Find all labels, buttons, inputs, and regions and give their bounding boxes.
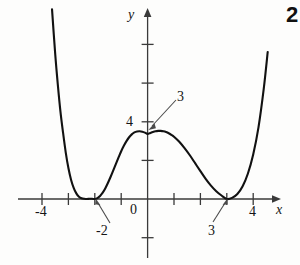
x-axis <box>18 193 281 205</box>
plot-canvas <box>0 0 300 265</box>
x-axis-label: x <box>276 203 282 217</box>
origin-label: 0 <box>130 203 137 217</box>
left-root-callout-arrow <box>95 199 110 224</box>
x-tick-label-4: 4 <box>249 205 256 219</box>
y-tick-label-4: 4 <box>126 115 133 129</box>
problem-number: 2 <box>286 4 298 26</box>
graph-figure: -4 4 0 4 x y 3 -2 3 2 <box>0 0 300 265</box>
y-intercept-callout-arrow <box>148 100 176 130</box>
y-intercept-callout-label: 3 <box>177 90 184 104</box>
y-axis-label: y <box>128 8 134 22</box>
right-root-callout-label: 3 <box>208 224 215 238</box>
x-tick-label--4: -4 <box>35 205 47 219</box>
left-root-callout-label: -2 <box>96 224 108 238</box>
right-root-callout-arrow <box>213 199 228 223</box>
curve <box>52 9 268 199</box>
